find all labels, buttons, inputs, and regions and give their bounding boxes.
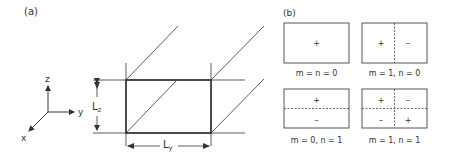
waveguide-drawing bbox=[93, 26, 264, 146]
mode-11: + – – + m = 1, n = 1 bbox=[362, 89, 427, 145]
mode-00: + m = n = 0 bbox=[284, 23, 349, 78]
panel-b-label: (b) bbox=[283, 8, 296, 18]
ly-label: Ly bbox=[163, 139, 173, 152]
lz-label: Lz bbox=[92, 101, 102, 114]
svg-text:–: – bbox=[379, 116, 383, 125]
svg-text:–: – bbox=[315, 116, 319, 125]
dimension-lz: Lz bbox=[92, 82, 102, 130]
mode-10: + – m = 1, n = 0 bbox=[362, 23, 427, 78]
panel-a-label: (a) bbox=[24, 6, 38, 17]
y-axis-label: y bbox=[78, 107, 84, 117]
mode-01: + – m = 0, n = 1 bbox=[284, 89, 349, 145]
coordinate-axes: z y x bbox=[21, 74, 84, 143]
svg-text:–: – bbox=[406, 96, 410, 105]
x-axis-label: x bbox=[21, 133, 27, 143]
svg-text:+: + bbox=[313, 39, 320, 48]
svg-text:+: + bbox=[405, 116, 412, 125]
z-axis-label: z bbox=[45, 74, 50, 84]
mode-caption: m = 1, n = 0 bbox=[369, 69, 421, 78]
svg-text:+: + bbox=[378, 39, 385, 48]
cross-section-rect bbox=[126, 80, 211, 133]
mode-caption: m = 0, n = 1 bbox=[291, 136, 343, 145]
svg-text:–: – bbox=[406, 39, 410, 48]
svg-text:+: + bbox=[313, 96, 320, 105]
x-axis-arrow bbox=[29, 112, 48, 131]
mode-caption: m = n = 0 bbox=[296, 69, 338, 78]
dimension-ly: Ly bbox=[127, 139, 210, 152]
svg-text:+: + bbox=[378, 96, 385, 105]
waveguide-mode-diagram: (a) z y x Lz Ly (b) bbox=[0, 0, 449, 158]
mode-caption: m = 1, n = 1 bbox=[369, 136, 421, 145]
